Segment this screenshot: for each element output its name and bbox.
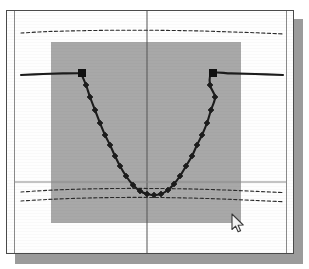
plot-canvas[interactable] <box>7 11 293 253</box>
parabola-curve <box>21 72 283 195</box>
data-point-diamond-marker <box>158 191 164 197</box>
screenshot-root <box>0 0 309 269</box>
data-point-diamond-marker <box>87 94 93 100</box>
data-point-diamond-marker <box>208 107 214 113</box>
left-square-handle[interactable] <box>79 70 86 77</box>
data-point-diamond-marker <box>207 82 213 88</box>
data-series-group <box>21 30 283 202</box>
lower-dashed-envelope-lower <box>21 197 283 201</box>
plot-window-frame[interactable] <box>6 10 294 254</box>
data-point-diamond-marker <box>83 82 89 88</box>
data-point-diamond-marker <box>204 120 210 126</box>
data-point-diamond-marker <box>212 94 218 100</box>
lower-dashed-envelope-upper <box>21 188 283 192</box>
right-square-handle[interactable] <box>210 70 217 77</box>
plot-graphics-layer <box>7 11 294 254</box>
data-point-diamond-marker <box>144 191 150 197</box>
data-markers-group <box>83 82 218 198</box>
data-point-diamond-marker <box>97 120 103 126</box>
axis-lines-group <box>15 11 286 254</box>
upper-dashed-envelope <box>21 30 283 34</box>
data-point-diamond-marker <box>92 107 98 113</box>
